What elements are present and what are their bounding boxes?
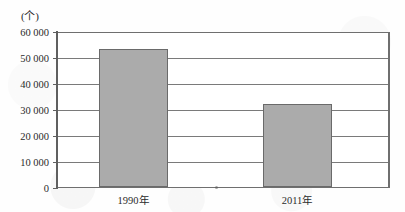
y-tick-label-0: 0 (0, 183, 49, 194)
y-tick-mark-60000 (53, 32, 57, 33)
scan-speck (215, 186, 218, 189)
bar-1990 (99, 49, 168, 187)
y-axis-unit-label: (个) (21, 7, 39, 23)
y-tick-mark-30000 (53, 110, 57, 111)
y-tick-label-40000: 40 000 (0, 79, 49, 90)
y-tick-mark-10000 (53, 162, 57, 163)
y-tick-label-50000: 50 000 (0, 53, 49, 64)
x-axis-label-2011: 2011年 (282, 192, 313, 207)
y-tick-mark-20000 (53, 136, 57, 137)
y-tick-label-20000: 20 000 (0, 131, 49, 142)
bar-2011 (263, 104, 332, 187)
y-tick-label-60000: 60 000 (0, 27, 49, 38)
plot-area (57, 32, 390, 188)
bar-chart-figure: (个) 60 000 50 000 40 000 30 000 20 000 1… (0, 0, 405, 212)
y-tick-label-10000: 10 000 (0, 157, 49, 168)
y-tick-label-30000: 30 000 (0, 105, 49, 116)
y-tick-mark-0 (53, 188, 57, 189)
x-axis-label-1990: 1990年 (118, 192, 149, 207)
y-tick-mark-40000 (53, 84, 57, 85)
y-tick-mark-50000 (53, 58, 57, 59)
